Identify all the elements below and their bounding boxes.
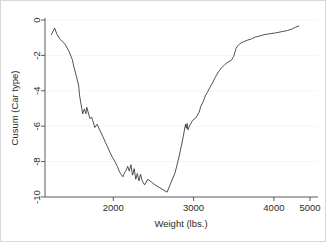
x-axis-title: Weight (lbs.) [154, 218, 207, 229]
y-tick-label: 0 [31, 17, 42, 22]
plot-area-background [45, 20, 318, 197]
x-tick-label: 5000 [299, 202, 320, 213]
chart-figure: 0 -2 -4 -6 -8 -10 2000 3000 4000 5000 We… [0, 0, 326, 242]
y-tick-label: -2 [31, 51, 42, 59]
y-tick-marks [41, 20, 45, 197]
y-tick-label: -6 [31, 122, 42, 130]
x-tick-label: 2000 [103, 202, 124, 213]
x-tick-label: 3000 [183, 202, 204, 213]
y-tick-labels: 0 -2 -4 -6 -8 -10 [31, 17, 42, 204]
cusum-line-chart: 0 -2 -4 -6 -8 -10 2000 3000 4000 5000 We… [0, 0, 326, 242]
y-tick-label: -4 [31, 87, 42, 95]
x-tick-marks [113, 197, 310, 201]
x-tick-labels: 2000 3000 4000 5000 [103, 202, 321, 213]
y-axis-title: Cusum (Car type) [9, 71, 20, 146]
y-tick-label: -8 [31, 157, 42, 165]
y-tick-label: -10 [31, 190, 42, 204]
x-tick-label: 4000 [263, 202, 284, 213]
